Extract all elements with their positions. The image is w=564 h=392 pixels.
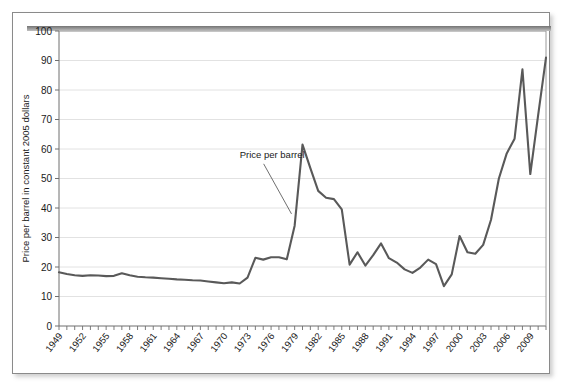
y-axis-tick-label: 60 bbox=[41, 144, 53, 155]
y-axis-tick-label: 50 bbox=[41, 173, 53, 184]
price-per-barrel-line bbox=[59, 58, 546, 287]
y-axis-tick-label: 20 bbox=[41, 262, 53, 273]
annotation-leader-line bbox=[264, 164, 292, 214]
x-axis-tick-label: 2000 bbox=[443, 330, 465, 353]
y-axis-tick-label: 70 bbox=[41, 114, 53, 125]
y-axis-tick-label: 0 bbox=[46, 321, 52, 332]
chart-figure-frame: 0102030405060708090100 19491952195519581… bbox=[12, 12, 550, 374]
y-axis-tick-label: 100 bbox=[35, 26, 52, 37]
x-axis-minor-tick-group bbox=[59, 326, 546, 330]
x-axis-tick-label: 1958 bbox=[114, 330, 136, 353]
x-axis-tick-label: 1979 bbox=[279, 330, 301, 353]
x-axis-tick-label: 1949 bbox=[43, 330, 65, 353]
x-axis-tick-label: 1961 bbox=[137, 330, 159, 353]
x-axis-tick-label: 1967 bbox=[184, 330, 206, 353]
y-axis-title: Price per barrel in constant 2005 dollar… bbox=[20, 94, 31, 262]
x-axis-tick-label: 1952 bbox=[66, 330, 88, 353]
y-axis-tick-label: 30 bbox=[41, 232, 53, 243]
annotation-price-per-barrel: Price per barrel bbox=[240, 149, 305, 160]
x-axis-tick-label: 2006 bbox=[491, 330, 513, 353]
y-axis-tick-label-group: 0102030405060708090100 bbox=[35, 26, 52, 332]
y-axis-tick-label: 40 bbox=[41, 203, 53, 214]
x-axis-tick-label: 1970 bbox=[208, 330, 230, 353]
x-axis-tick-label: 1976 bbox=[255, 330, 277, 353]
y-axis-tick-group bbox=[55, 31, 59, 326]
x-axis-tick-label: 1982 bbox=[302, 330, 324, 353]
x-axis-tick-label: 2003 bbox=[467, 330, 489, 353]
x-axis-tick-label: 1964 bbox=[161, 330, 183, 353]
y-axis-tick-label: 90 bbox=[41, 55, 53, 66]
gridline-group bbox=[59, 31, 546, 297]
x-axis-tick-label: 1973 bbox=[231, 330, 253, 353]
x-axis-tick-label: 1991 bbox=[373, 330, 395, 353]
y-axis-tick-label: 10 bbox=[41, 291, 53, 302]
x-axis-tick-label: 1994 bbox=[396, 330, 418, 353]
x-axis-tick-label-group: 1949195219551958196119641967197019731976… bbox=[43, 330, 536, 353]
y-axis-tick-label: 80 bbox=[41, 85, 53, 96]
x-axis-tick-label: 2009 bbox=[514, 330, 536, 353]
oil-price-line-chart: 0102030405060708090100 19491952195519581… bbox=[13, 13, 551, 375]
x-axis-tick-label: 1985 bbox=[326, 330, 348, 353]
x-axis-tick-label: 1955 bbox=[90, 330, 112, 353]
x-axis-tick-label: 1988 bbox=[349, 330, 371, 353]
x-axis-tick-label: 1997 bbox=[420, 330, 442, 353]
